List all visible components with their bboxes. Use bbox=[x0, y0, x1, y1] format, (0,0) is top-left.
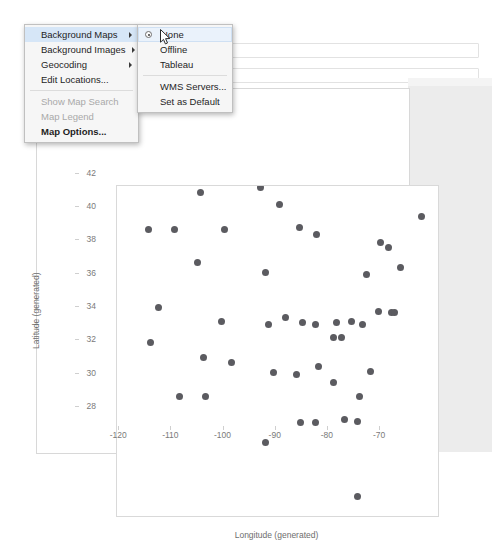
scatter-point[interactable] bbox=[228, 359, 235, 366]
scatter-point[interactable] bbox=[348, 318, 355, 325]
scatter-point[interactable] bbox=[312, 419, 319, 426]
scatter-point[interactable] bbox=[221, 226, 228, 233]
menu-item-label: Background Maps bbox=[41, 27, 123, 42]
submenu-item-label: Tableau bbox=[160, 57, 193, 72]
chevron-right-icon bbox=[129, 62, 132, 68]
menu-item-map-legend: Map Legend bbox=[25, 109, 138, 124]
x-axis-tick-mark bbox=[379, 426, 380, 430]
scatter-point[interactable] bbox=[363, 271, 370, 278]
scatter-point[interactable] bbox=[418, 213, 425, 220]
x-axis-title: Longitude (generated) bbox=[116, 530, 437, 540]
scatter-point[interactable] bbox=[312, 321, 319, 328]
scatter-point[interactable] bbox=[391, 309, 398, 316]
scatter-point[interactable] bbox=[341, 416, 348, 423]
chevron-right-icon bbox=[132, 47, 135, 53]
menu-separator bbox=[30, 90, 133, 91]
x-axis-tick-label: -110 bbox=[162, 430, 178, 440]
scatter-point[interactable] bbox=[354, 418, 361, 425]
y-axis-tick-label: 38 bbox=[87, 234, 96, 244]
x-axis-tick-label: -120 bbox=[110, 430, 127, 440]
scatter-point[interactable] bbox=[218, 318, 225, 325]
menu-item-label: Map Legend bbox=[41, 109, 132, 124]
y-axis-tick-mark bbox=[75, 339, 79, 340]
x-axis-tick-label: -70 bbox=[373, 430, 385, 440]
y-axis-tick-label: 34 bbox=[87, 301, 96, 311]
submenu-item-wms-servers[interactable]: WMS Servers... bbox=[138, 79, 232, 94]
menu-item-geocoding[interactable]: Geocoding bbox=[25, 57, 138, 72]
scatter-point[interactable] bbox=[202, 393, 209, 400]
y-axis-tick-mark bbox=[75, 173, 79, 174]
y-axis-tick-label: 28 bbox=[87, 401, 96, 411]
scatter-point[interactable] bbox=[385, 244, 392, 251]
right-panel-header bbox=[408, 78, 492, 86]
scatter-point[interactable] bbox=[330, 334, 337, 341]
x-axis-tick-mark bbox=[118, 426, 119, 430]
y-axis-tick-label: 42 bbox=[87, 168, 96, 178]
submenu-item-none[interactable]: None bbox=[138, 27, 232, 42]
scatter-point[interactable] bbox=[276, 201, 283, 208]
submenu-item-set-as-default[interactable]: Set as Default bbox=[138, 94, 232, 109]
scatter-point[interactable] bbox=[367, 368, 374, 375]
scatter-plot-area[interactable] bbox=[116, 185, 439, 517]
scatter-point[interactable] bbox=[356, 393, 363, 400]
scatter-point[interactable] bbox=[145, 226, 152, 233]
scatter-point[interactable] bbox=[197, 189, 204, 196]
menu-item-label: Edit Locations... bbox=[41, 72, 132, 87]
scatter-point[interactable] bbox=[262, 269, 269, 276]
scatter-point[interactable] bbox=[375, 308, 382, 315]
scatter-point[interactable] bbox=[257, 185, 264, 191]
scatter-point[interactable] bbox=[265, 321, 272, 328]
menu-item-label: Background Images bbox=[41, 42, 126, 57]
menu-item-label: Show Map Search bbox=[41, 94, 132, 109]
scatter-point[interactable] bbox=[354, 493, 361, 500]
scatter-point[interactable] bbox=[297, 419, 304, 426]
scatter-point[interactable] bbox=[397, 264, 404, 271]
x-axis-tick-mark bbox=[275, 426, 276, 430]
context-menu[interactable]: Background MapsBackground ImagesGeocodin… bbox=[24, 24, 139, 143]
scatter-point[interactable] bbox=[282, 314, 289, 321]
scatter-point[interactable] bbox=[313, 231, 320, 238]
scatter-point[interactable] bbox=[171, 226, 178, 233]
scatter-point[interactable] bbox=[270, 369, 277, 376]
submenu-item-tableau[interactable]: Tableau bbox=[138, 57, 232, 72]
menu-item-show-map-search: Show Map Search bbox=[25, 94, 138, 109]
scatter-point[interactable] bbox=[155, 304, 162, 311]
scatter-point[interactable] bbox=[200, 354, 207, 361]
menu-item-background-maps[interactable]: Background Maps bbox=[25, 27, 138, 42]
y-axis-tick-mark bbox=[75, 206, 79, 207]
y-axis-title: Latitude (generated) bbox=[31, 272, 41, 349]
y-axis-tick-label: 36 bbox=[87, 268, 96, 278]
menu-item-map-options[interactable]: Map Options... bbox=[25, 124, 138, 139]
scatter-point[interactable] bbox=[262, 439, 269, 446]
scatter-point[interactable] bbox=[377, 239, 384, 246]
scatter-point[interactable] bbox=[176, 393, 183, 400]
x-axis-tick-label: -80 bbox=[321, 430, 333, 440]
x-axis-tick-mark bbox=[327, 426, 328, 430]
x-axis-tick-mark bbox=[170, 426, 171, 430]
scatter-point[interactable] bbox=[359, 321, 366, 328]
submenu-item-label: WMS Servers... bbox=[160, 79, 227, 94]
scatter-point[interactable] bbox=[299, 319, 306, 326]
submenu-item-label: Set as Default bbox=[160, 94, 220, 109]
menu-item-label: Map Options... bbox=[41, 124, 132, 139]
mouse-pointer-icon bbox=[160, 29, 172, 50]
x-axis-tick-mark bbox=[223, 426, 224, 430]
background-maps-submenu[interactable]: NoneOfflineTableauWMS Servers...Set as D… bbox=[137, 24, 233, 113]
scatter-point[interactable] bbox=[293, 371, 300, 378]
y-axis-tick-mark bbox=[75, 373, 79, 374]
scatter-point[interactable] bbox=[194, 259, 201, 266]
scatter-point[interactable] bbox=[147, 339, 154, 346]
menu-item-edit-locations[interactable]: Edit Locations... bbox=[25, 72, 138, 87]
x-axis-tick-label: -100 bbox=[214, 430, 231, 440]
y-axis-tick-label: 40 bbox=[87, 201, 96, 211]
scatter-point[interactable] bbox=[338, 334, 345, 341]
menu-item-background-images[interactable]: Background Images bbox=[25, 42, 138, 57]
menu-item-label: Geocoding bbox=[41, 57, 123, 72]
scatter-point[interactable] bbox=[315, 363, 322, 370]
y-axis-tick-mark bbox=[75, 306, 79, 307]
scatter-point[interactable] bbox=[296, 224, 303, 231]
submenu-item-offline[interactable]: Offline bbox=[138, 42, 232, 57]
scatter-point[interactable] bbox=[333, 319, 340, 326]
chevron-right-icon bbox=[129, 32, 132, 38]
scatter-point[interactable] bbox=[330, 379, 337, 386]
